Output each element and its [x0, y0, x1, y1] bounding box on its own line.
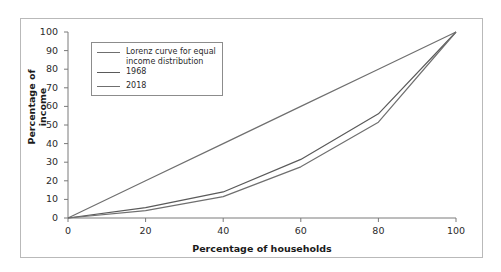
x-tick-label: 80	[365, 225, 391, 236]
x-tick-label: 0	[55, 225, 81, 236]
y-tick-marks	[64, 32, 68, 218]
legend-label-equal-distribution: Lorenz curve for equal income distributi…	[126, 47, 222, 66]
legend-entry-equal-distribution: Lorenz curve for equal income distributi…	[97, 47, 222, 66]
x-tick-marks	[68, 218, 456, 222]
chart-legend: Lorenz curve for equal income distributi…	[91, 42, 223, 96]
y-tick-label: 0	[34, 212, 58, 223]
y-tick-label: 10	[34, 193, 58, 204]
legend-swatch-equal-distribution	[97, 52, 120, 53]
legend-entry-1968: 1968	[97, 67, 146, 77]
legend-swatch-1968	[97, 72, 120, 73]
legend-label-2018: 2018	[126, 81, 146, 91]
legend-swatch-2018	[97, 86, 120, 87]
legend-entry-2018: 2018	[97, 81, 146, 91]
x-tick-label: 20	[133, 225, 159, 236]
lorenz-curve-chart: 0102030405060708090100 020406080100 Perc…	[0, 0, 501, 272]
y-axis-title: Percentage of income	[26, 52, 48, 162]
y-tick-label: 100	[34, 26, 58, 37]
x-tick-label: 60	[288, 225, 314, 236]
x-tick-label: 40	[210, 225, 236, 236]
legend-label-1968: 1968	[126, 67, 146, 77]
y-tick-label: 20	[34, 175, 58, 186]
x-axis-title: Percentage of households	[68, 243, 456, 254]
x-tick-label: 100	[443, 225, 469, 236]
